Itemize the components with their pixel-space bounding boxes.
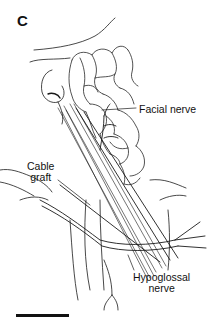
cable-graft-label: Cable graft: [27, 161, 54, 183]
vessels: [70, 200, 118, 310]
panel-letter: C: [17, 13, 28, 28]
hypoglossal-nerve-label: Hypoglossal nerve: [133, 272, 190, 294]
hypoglossal-label-line2: nerve: [133, 283, 190, 294]
facial-nerve-label: Facial nerve: [139, 104, 196, 115]
anatomical-illustration: C Facial nerve Cable graft Hypoglossal n…: [0, 0, 223, 318]
scale-bar: [16, 314, 69, 317]
facial-nerve-label-text: Facial nerve: [139, 103, 196, 115]
hypoglossal-nerve: [40, 200, 206, 251]
cable-graft-label-line2: graft: [27, 172, 54, 183]
